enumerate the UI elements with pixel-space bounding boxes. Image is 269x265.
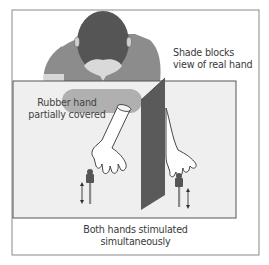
label-rubber-line1: Rubber hand [28, 97, 106, 109]
label-rubber-line2: partially covered [28, 109, 106, 121]
rubber-hand-illusion-figure: Shade blocks view of real hand Rubber ha… [0, 0, 269, 265]
label-rubber-hand-covered: Rubber hand partially covered [28, 97, 106, 121]
label-shade-blocks-view: Shade blocks view of real hand [173, 47, 252, 71]
person-left-ear [75, 37, 80, 47]
label-shade-line1: Shade blocks [173, 47, 252, 59]
label-shade-line2: view of real hand [173, 59, 252, 71]
person-right-ear [127, 37, 132, 47]
label-both-hands-stimulated: Both hands stimulated simultaneously [12, 224, 259, 248]
shade-panel [141, 78, 165, 210]
label-both-line1: Both hands stimulated [12, 224, 259, 236]
label-both-line2: simultaneously [12, 236, 259, 248]
